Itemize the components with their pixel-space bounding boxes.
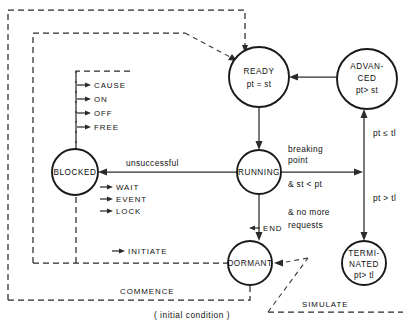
state-diagram-canvas: CAUSE ON OFF FREE WAIT EVENT LOCK [0, 0, 403, 322]
label-st-lt-pt: & st < pt [288, 179, 322, 189]
edge-initiate-path [33, 33, 185, 263]
label-wait: WAIT [116, 183, 139, 192]
edge-ready-to-running-arrowhead [256, 141, 263, 150]
arrow-cause-head [85, 83, 91, 88]
label-event: EVENT [116, 195, 147, 204]
label-unsuccessful: unsuccessful [126, 158, 179, 168]
state-node-terminated-sublabel: pt> tl [354, 271, 374, 280]
label-commence: COMMENCE [120, 287, 175, 296]
arrow-end-head [249, 226, 255, 231]
state-node-blocked-label: BLOCKED [54, 168, 97, 177]
label-lock: LOCK [116, 207, 141, 216]
arrow-lock-head [107, 209, 113, 214]
state-node-dormant[interactable]: DORMANT [227, 241, 272, 285]
arrow-on-head [85, 97, 91, 102]
state-node-running[interactable]: RUNNING [237, 150, 281, 194]
arrow-off-head [85, 111, 91, 116]
arrow-event-head [107, 197, 113, 202]
state-node-advanced-sublabel: pt> st [356, 86, 378, 95]
state-diagram-figure: CAUSE ON OFF FREE WAIT EVENT LOCK [0, 0, 403, 322]
state-node-blocked[interactable]: BLOCKED [52, 149, 98, 195]
edge-running-to-dormant-arrowhead [256, 232, 263, 241]
state-node-ready-sublabel: pt = st [247, 80, 272, 89]
edge-simulate-horizontal [286, 258, 308, 262]
label-requests: requests [288, 220, 323, 230]
arrow-free-head [85, 125, 91, 130]
edge-commence-path [8, 10, 245, 300]
state-node-ready[interactable]: READY pt = st [229, 47, 289, 107]
edge-running-to-blocked-arrowhead [98, 169, 107, 176]
state-node-terminated[interactable]: TERMI- NATED pt> tl [342, 241, 386, 285]
state-node-advanced-label: ADVAN- [350, 62, 384, 71]
state-node-running-label: RUNNING [238, 168, 280, 177]
label-simulate: SIMULATE [302, 300, 348, 309]
arrow-initiate-head [119, 249, 125, 254]
label-initiate: INITIATE [128, 247, 167, 256]
edge-initiate-diagonal [185, 33, 232, 58]
state-node-ready-circle [229, 47, 289, 107]
state-node-dormant-label: DORMANT [227, 259, 272, 268]
label-free: FREE [94, 123, 119, 132]
edge-simulate-arrowhead [274, 260, 283, 267]
edge-rail-to-advanced-arrowhead [361, 109, 368, 118]
state-node-ready-label: READY [244, 67, 275, 76]
state-node-advanced[interactable]: ADVAN- CED pt> st [337, 49, 397, 109]
edge-advanced-to-ready-arrowhead [289, 74, 298, 81]
label-breaking: breaking [288, 144, 323, 154]
figure-caption: ( initial condition ) [154, 310, 230, 320]
edge-rail-to-terminated-arrowhead [361, 232, 368, 241]
label-off: OFF [94, 109, 113, 118]
state-node-terminated-label: TERMI- [348, 249, 380, 258]
label-point: point [288, 155, 308, 165]
label-pt-gt-tl: pt > tl [373, 193, 396, 203]
label-pt-le-tl: pt ≤ tl [373, 128, 396, 138]
state-node-terminated-label2: NATED [349, 260, 379, 269]
label-end: END [263, 224, 283, 233]
state-node-advanced-label2: CED [358, 74, 377, 83]
edge-running-to-rail-arrowhead [354, 169, 363, 176]
arrow-wait-head [107, 185, 113, 190]
label-no-more: & no more [288, 207, 330, 217]
label-cause: CAUSE [94, 81, 126, 90]
label-on: ON [94, 95, 108, 104]
